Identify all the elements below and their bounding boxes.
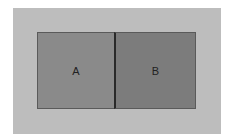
region-b: B: [114, 32, 196, 109]
region-a: A: [37, 32, 115, 109]
region-b-label: B: [152, 65, 159, 77]
region-a-label: A: [72, 65, 79, 77]
